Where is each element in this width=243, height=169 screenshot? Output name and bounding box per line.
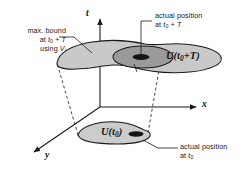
upper-set-label: U(t0+T) [166, 50, 200, 63]
lower-set-label: U(t0) [101, 126, 122, 139]
t-axis-label: t [86, 8, 89, 18]
x-axis-label: x [202, 99, 207, 109]
max-bound-line-2: at t0 + T [40, 35, 66, 44]
annotation-max-bound: max. bound at t0 + T using Vi [4, 27, 66, 55]
actual-bottom-line-2: at t0 [180, 151, 193, 160]
diagram-canvas: max. bound at t0 + T using Vi actual pos… [0, 0, 243, 169]
annotation-actual-position-top: actual position at t0 + T [155, 12, 202, 30]
actual-position-marker-top [133, 54, 150, 60]
annotation-actual-position-bottom: actual position at t0 [180, 143, 227, 161]
max-bound-line-3: using Vi [40, 44, 66, 53]
y-axis-label: y [45, 150, 49, 160]
actual-position-marker-bottom [129, 131, 144, 136]
leader-line-actual-bottom [143, 140, 178, 148]
actual-top-line-2: at t0 + T [155, 20, 181, 29]
